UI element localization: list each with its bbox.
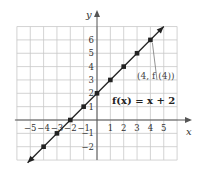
x-tick-label: 1: [108, 123, 113, 133]
x-axis-label: x: [186, 126, 192, 137]
data-point: [108, 78, 113, 83]
y-tick-label: 5: [89, 48, 94, 58]
axes: [15, 10, 192, 160]
y-tick-label: −2: [81, 142, 94, 152]
y-tick-label: 1: [89, 102, 94, 112]
y-tick-label: 4: [89, 62, 94, 72]
y-tick-label: 3: [89, 75, 94, 85]
data-point: [55, 131, 60, 136]
y-axis-arrow: [94, 10, 100, 17]
x-tick-label: −5: [24, 123, 37, 133]
x-tick-label: 4: [148, 123, 153, 133]
x-tick-label: 5: [161, 123, 166, 133]
x-tick-label: 3: [134, 123, 139, 133]
data-point: [148, 38, 153, 43]
point-annotation: (4, f (4)): [137, 71, 174, 81]
data-point: [81, 104, 86, 109]
y-tick-label: −1: [81, 128, 94, 138]
x-tick-label: −4: [37, 123, 50, 133]
data-point: [121, 64, 126, 69]
function-label: f(x) = x + 2: [112, 95, 175, 106]
y-axis-label: y: [85, 9, 92, 20]
data-point: [95, 91, 100, 96]
x-axis-arrow: [185, 117, 192, 123]
data-point: [68, 118, 73, 123]
linear-function-graph: −5−4−3−2−112345−2−1123456 f(x) = x + 2 (…: [0, 0, 202, 174]
data-point: [41, 144, 46, 149]
x-tick-label: 2: [121, 123, 126, 133]
y-tick-label: 6: [89, 35, 94, 45]
data-point: [135, 51, 140, 56]
